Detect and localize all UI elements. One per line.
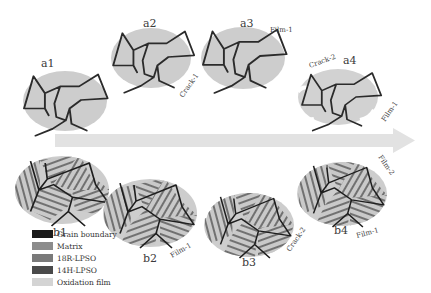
stage-label-b4: b4	[334, 224, 348, 237]
legend-item-oxidation-film: Oxidation film	[32, 276, 117, 288]
annotation-b4-film2: Film-2	[376, 154, 396, 177]
stage-a3	[201, 27, 287, 93]
legend: Grain boundary Matrix 18R-LPSO 14H-LPSO …	[32, 228, 117, 288]
legend-label: Matrix	[57, 242, 82, 251]
stage-b3	[204, 188, 294, 258]
stage-a4	[298, 69, 381, 131]
legend-label: Grain boundary	[57, 230, 117, 239]
annotation-a3-film: Film-1	[270, 26, 293, 34]
grain-boundary-swatch	[32, 230, 53, 238]
progress-arrow	[55, 128, 415, 153]
annotation-a4-film: Film-1	[380, 100, 400, 123]
stage-label-a4: a4	[343, 54, 357, 67]
legend-item-18r-lpso: 18R-LPSO	[32, 252, 117, 264]
legend-label: Oxidation film	[57, 278, 111, 287]
legend-label: 18R-LPSO	[57, 254, 96, 263]
stage-b1	[15, 155, 110, 226]
legend-item-matrix: Matrix	[32, 240, 117, 252]
legend-label: 14H-LPSO	[57, 266, 97, 275]
stage-label-a2: a2	[143, 17, 157, 30]
annotation-b2-film: Film-1	[169, 241, 193, 259]
stage-label-b3: b3	[242, 256, 256, 269]
stage-b2	[103, 178, 197, 248]
stage-a2	[111, 28, 194, 93]
stage-label-a1: a1	[41, 57, 55, 70]
stage-label-a3: a3	[240, 17, 254, 30]
stage-b4	[297, 158, 387, 227]
14h-lpso-swatch	[32, 266, 53, 274]
stage-a1	[23, 71, 108, 136]
oxidation-film-swatch	[32, 278, 53, 286]
matrix-swatch	[32, 242, 53, 250]
annotation-b4-film1: Film-1	[355, 226, 379, 240]
18r-lpso-swatch	[32, 254, 53, 262]
legend-item-grain-boundary: Grain boundary	[32, 228, 117, 240]
annotation-a4-crack: Crack-2	[308, 53, 337, 70]
legend-item-14h-lpso: 14H-LPSO	[32, 264, 117, 276]
stage-label-b2: b2	[143, 252, 157, 265]
